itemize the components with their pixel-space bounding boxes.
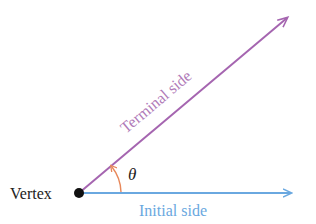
initial-side-label: Initial side: [139, 202, 207, 219]
angle-diagram: Vertex Initial side θ Terminal side: [0, 0, 316, 224]
vertex-label: Vertex: [10, 185, 52, 202]
angle-arc-icon: [112, 167, 121, 192]
terminal-side-ray: [79, 18, 287, 193]
angle-theta-label: θ: [128, 165, 136, 184]
vertex-dot: [74, 188, 84, 198]
terminal-side-label: Terminal side: [117, 67, 195, 136]
